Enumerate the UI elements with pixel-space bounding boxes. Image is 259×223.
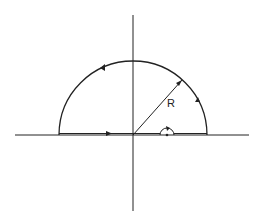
contour-diagram: R [0,0,259,223]
diagram-svg [0,0,259,223]
left-arc-arrow-icon [100,64,105,71]
pole-marker-icon [166,134,169,137]
radius-label: R [167,97,175,109]
indentation-arrow-icon [166,126,170,131]
